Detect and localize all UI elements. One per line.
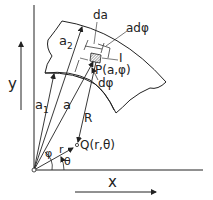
vector-R [78, 62, 96, 142]
origin-point [32, 168, 36, 172]
a1-label: a1 [35, 98, 49, 115]
phi-label: φ [45, 148, 52, 159]
dphi-label: dφ [98, 77, 114, 89]
theta-label: θ [64, 156, 71, 167]
y-axis-label: y [8, 77, 17, 92]
point-P-label: P(a,φ) [95, 64, 131, 76]
x-axis-label: x [108, 175, 117, 190]
a2-label: a2 [59, 34, 73, 51]
a-dphi-label: adφ [126, 22, 149, 34]
diagram-canvas: y x da adφ I P(a,φ) dφ a2 a1 a R Q(r,θ) … [0, 0, 213, 200]
point-Q-label: Q(r,θ) [80, 139, 115, 151]
da-label: da [93, 9, 108, 21]
a1-label-base: a [35, 97, 43, 112]
r-label: r [59, 144, 64, 155]
point-Q-marker [75, 143, 78, 146]
I-leader [102, 58, 118, 60]
a1-label-sub: 1 [43, 105, 49, 115]
diagram-svg [0, 0, 213, 200]
a-label: a [63, 98, 71, 111]
R-label: R [84, 112, 92, 124]
a2-label-base: a [59, 33, 67, 48]
a2-label-sub: 2 [67, 41, 73, 51]
element-I [90, 53, 101, 63]
